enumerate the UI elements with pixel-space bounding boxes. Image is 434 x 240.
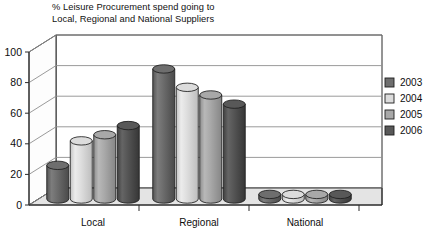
bar-regional-2006 — [223, 100, 245, 203]
category-label-local: Local — [81, 217, 105, 228]
y-axis-tick-labels: 0 20 40 60 80 100 — [4, 46, 22, 211]
bar-national-2003 — [259, 190, 281, 203]
y-tick-label: 20 — [10, 168, 22, 180]
y-tick-label: 80 — [10, 76, 22, 88]
chart-legend: 2003 2004 2005 2006 — [385, 77, 423, 136]
x-axis-category-labels: Local Regional National — [81, 217, 323, 228]
legend-swatch-icon — [385, 110, 394, 119]
legend-label: 2006 — [400, 125, 423, 136]
legend-label: 2005 — [400, 109, 423, 120]
bar-national-2004 — [282, 190, 304, 203]
bar-regional-2003 — [153, 65, 175, 203]
legend-swatch-icon — [385, 126, 394, 135]
legend-item-2006[interactable]: 2006 — [385, 125, 423, 136]
y-axis — [25, 52, 29, 205]
legend-item-2005[interactable]: 2005 — [385, 109, 423, 120]
bar-regional-2004 — [176, 83, 198, 203]
category-label-regional: Regional — [179, 217, 218, 228]
y-tick-label: 0 — [16, 199, 22, 211]
category-label-national: National — [287, 217, 324, 228]
bar-local-2003 — [47, 161, 69, 203]
legend-item-2003[interactable]: 2003 — [385, 77, 423, 88]
bar-local-2004 — [70, 137, 92, 204]
chart-container: % Leisure Procurement spend going to Loc… — [0, 0, 434, 240]
legend-item-2004[interactable]: 2004 — [385, 93, 423, 104]
bar-national-2006 — [329, 190, 351, 203]
chart-plot-area: 0 20 40 60 80 100 Local Regional Nationa… — [0, 0, 434, 240]
legend-label: 2003 — [400, 77, 423, 88]
legend-label: 2004 — [400, 93, 423, 104]
bar-national-2005 — [306, 190, 328, 203]
y-tick-label: 60 — [10, 107, 22, 119]
bar-local-2006 — [117, 121, 139, 203]
y-tick-label: 100 — [4, 46, 22, 58]
bar-regional-2005 — [200, 91, 222, 203]
legend-swatch-icon — [385, 78, 394, 87]
y-tick-label: 40 — [10, 137, 22, 149]
legend-swatch-icon — [385, 94, 394, 103]
bar-local-2005 — [94, 131, 116, 204]
